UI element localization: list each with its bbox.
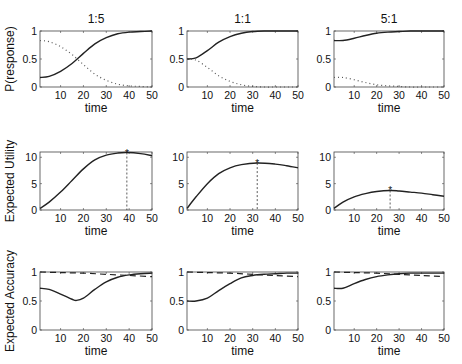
x-tick-label: 10 xyxy=(202,89,214,101)
x-tick-label: 20 xyxy=(371,212,383,224)
axes-box xyxy=(187,152,298,210)
x-tick-label: 20 xyxy=(78,89,90,101)
y-tick-label: 0.5 xyxy=(316,295,331,307)
x-tick-label: 10 xyxy=(202,212,214,224)
max-star-icon: * xyxy=(388,185,392,196)
series-solid xyxy=(40,273,152,300)
series-solid xyxy=(187,31,298,59)
x-tick-label: 40 xyxy=(416,212,428,224)
x-tick-label: 30 xyxy=(393,212,405,224)
y-tick-label: 0 xyxy=(31,204,37,216)
axes-box xyxy=(40,152,152,210)
x-tick-label: 30 xyxy=(100,332,112,344)
y-tick-label: 0.5 xyxy=(316,53,331,65)
y-tick-label: 1 xyxy=(31,25,37,37)
x-tick-label: 50 xyxy=(438,212,450,224)
x-tick-label: 20 xyxy=(371,332,383,344)
x-tick-label: 30 xyxy=(247,332,259,344)
plot-row1-col3: 102030405000.515:1time xyxy=(316,12,450,115)
figure-canvas: 102030405000.511:5timeP(response)1020304… xyxy=(0,0,462,364)
x-tick-label: 10 xyxy=(348,332,360,344)
y-axis-label: Expected Accuracy xyxy=(3,250,17,352)
y-tick-label: 0 xyxy=(178,324,184,336)
y-tick-label: 0.5 xyxy=(169,53,184,65)
y-tick-label: 0.5 xyxy=(22,53,37,65)
y-tick-label: 0.5 xyxy=(169,295,184,307)
y-tick-label: 5 xyxy=(325,178,331,190)
plot-row3-col3: 102030405000.51time xyxy=(316,266,450,358)
plot-row2-col1: 10203040500510*timeExpected Utility xyxy=(3,140,158,238)
x-tick-label: 30 xyxy=(100,89,112,101)
y-tick-label: 0 xyxy=(31,324,37,336)
x-tick-label: 10 xyxy=(55,212,67,224)
x-tick-label: 40 xyxy=(270,89,282,101)
plot-row3-col1: 102030405000.51timeExpected Accuracy xyxy=(3,250,158,358)
series-solid xyxy=(40,153,152,209)
y-tick-label: 1 xyxy=(325,25,331,37)
y-tick-label: 1 xyxy=(31,266,37,278)
axes-box xyxy=(187,272,298,330)
x-tick-label: 40 xyxy=(123,212,135,224)
x-tick-label: 20 xyxy=(224,89,236,101)
series-solid xyxy=(334,31,444,41)
x-tick-label: 40 xyxy=(416,89,428,101)
x-axis-label: time xyxy=(231,224,254,238)
y-tick-label: 0 xyxy=(31,81,37,93)
y-tick-label: 0 xyxy=(178,204,184,216)
x-axis-label: time xyxy=(378,101,401,115)
x-axis-label: time xyxy=(231,344,254,358)
x-tick-label: 20 xyxy=(78,212,90,224)
x-tick-label: 20 xyxy=(224,332,236,344)
y-tick-label: 5 xyxy=(178,178,184,190)
max-star-icon: * xyxy=(255,158,259,169)
x-tick-label: 10 xyxy=(55,89,67,101)
x-tick-label: 20 xyxy=(224,212,236,224)
x-tick-label: 10 xyxy=(348,212,360,224)
x-tick-label: 50 xyxy=(146,212,158,224)
x-axis-label: time xyxy=(85,344,108,358)
series-solid xyxy=(40,31,152,77)
y-axis-label: Expected Utility xyxy=(3,140,17,223)
x-tick-label: 50 xyxy=(146,89,158,101)
x-tick-label: 50 xyxy=(438,89,450,101)
column-title: 5:1 xyxy=(381,12,398,26)
axes-box xyxy=(40,272,152,330)
plot-row3-col2: 102030405000.51time xyxy=(169,266,304,358)
y-tick-label: 10 xyxy=(319,151,331,163)
x-tick-label: 30 xyxy=(247,89,259,101)
x-tick-label: 50 xyxy=(292,332,304,344)
y-tick-label: 0 xyxy=(325,204,331,216)
y-tick-label: 0.5 xyxy=(22,295,37,307)
axes-box xyxy=(40,31,152,87)
axes-box xyxy=(334,152,444,210)
x-tick-label: 30 xyxy=(247,212,259,224)
y-tick-label: 0 xyxy=(325,324,331,336)
x-tick-label: 30 xyxy=(100,212,112,224)
x-axis-label: time xyxy=(231,101,254,115)
series-solid xyxy=(187,163,298,208)
axes-box xyxy=(187,31,298,87)
series-dotted xyxy=(40,41,152,87)
y-tick-label: 10 xyxy=(172,151,184,163)
x-tick-label: 10 xyxy=(55,332,67,344)
x-tick-label: 40 xyxy=(270,332,282,344)
x-tick-label: 50 xyxy=(292,212,304,224)
x-axis-label: time xyxy=(85,224,108,238)
y-tick-label: 1 xyxy=(178,25,184,37)
plot-row2-col3: 10203040500510*time xyxy=(319,151,450,238)
y-tick-label: 1 xyxy=(325,266,331,278)
x-tick-label: 50 xyxy=(438,332,450,344)
y-axis-label: P(response) xyxy=(3,26,17,91)
x-tick-label: 50 xyxy=(292,89,304,101)
max-star-icon: * xyxy=(125,148,129,159)
x-tick-label: 10 xyxy=(202,332,214,344)
x-axis-label: time xyxy=(378,224,401,238)
series-dotted xyxy=(187,59,298,87)
axes-box xyxy=(334,272,444,330)
y-tick-label: 10 xyxy=(25,151,37,163)
x-tick-label: 40 xyxy=(123,332,135,344)
x-tick-label: 10 xyxy=(348,89,360,101)
column-title: 1:1 xyxy=(234,12,251,26)
x-tick-label: 20 xyxy=(78,332,90,344)
plot-row1-col1: 102030405000.511:5timeP(response) xyxy=(3,12,158,115)
